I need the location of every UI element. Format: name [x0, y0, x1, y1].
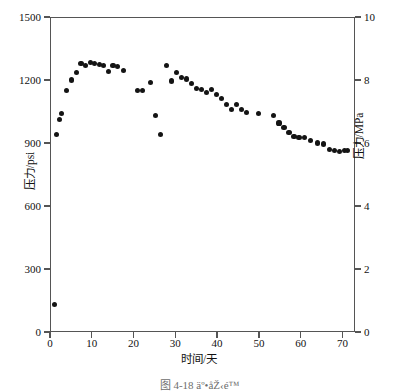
y-axis-tick-right — [355, 79, 361, 80]
x-axis-tick-label: 40 — [212, 338, 223, 349]
x-axis-tick — [216, 332, 217, 338]
x-axis-tick — [49, 332, 50, 338]
y-axis-title-left: 压力/psi — [21, 136, 37, 206]
y-axis-tick-label-right: 0 — [364, 327, 370, 338]
x-axis-tick — [342, 332, 343, 338]
x-axis-title: 时间/天 — [181, 350, 217, 366]
y-axis-tick-right — [355, 16, 361, 17]
x-axis-tick-label: 70 — [337, 338, 348, 349]
x-axis-tick — [133, 332, 134, 338]
x-axis-tick-label: 60 — [295, 338, 306, 349]
y-axis-tick-label-right: 8 — [364, 75, 370, 86]
x-axis-tick — [91, 332, 92, 338]
y-axis-tick-label-right: 4 — [364, 201, 370, 212]
y-axis-tick-right — [355, 331, 361, 332]
x-axis-tick — [300, 332, 301, 338]
x-axis-tick-label: 10 — [86, 338, 97, 349]
y-axis-tick-label-left: 300 — [0, 264, 41, 275]
x-axis-tick-label: 50 — [253, 338, 264, 349]
y-axis-title-right: 压力/MPa — [350, 101, 366, 171]
y-axis-tick-label-left: 1500 — [0, 12, 41, 23]
figure-caption: 图 4-18 äº•åŽ‹é™ — [0, 376, 399, 392]
y-axis-tick-right — [355, 268, 361, 269]
y-axis-tick-label-right: 2 — [364, 264, 370, 275]
y-axis-tick-label-right: 10 — [364, 12, 375, 23]
y-axis-tick-label-left: 0 — [0, 327, 41, 338]
x-axis-tick — [258, 332, 259, 338]
y-axis-tick-label-left: 1200 — [0, 75, 41, 86]
y-axis-tick-right — [355, 205, 361, 206]
x-axis-tick-label: 0 — [47, 338, 53, 349]
x-axis-tick — [175, 332, 176, 338]
x-axis-tick-label: 20 — [128, 338, 139, 349]
x-axis-tick-label: 30 — [170, 338, 181, 349]
plot-area — [50, 17, 355, 332]
